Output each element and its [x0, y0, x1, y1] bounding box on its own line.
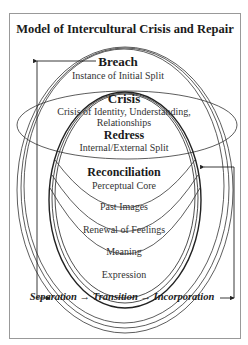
reconciliation-heading: Reconciliation [0, 165, 248, 180]
flow-sequence: Separation → Transition → Incorporation [0, 291, 246, 302]
layer-meaning: Meaning [0, 246, 248, 257]
layer-expression: Expression [0, 269, 248, 280]
breach-subtitle: Instance of Initial Split [0, 70, 242, 81]
layer-past-images: Past Images [0, 201, 248, 212]
crisis-heading: Crisis [0, 91, 248, 107]
crisis-subtitle-line2: Relationships [0, 117, 248, 128]
redress-subtitle: Internal/External Split [0, 142, 248, 153]
reconciliation-subtitle: Perceptual Core [0, 180, 248, 191]
redress-heading: Redress [0, 128, 248, 143]
crisis-subtitle-line1: Crisis of Identity, Understanding, [0, 106, 248, 117]
diagram-title: Model of Intercultural Crisis and Repair [9, 22, 241, 37]
layer-renewal-of-feelings: Renewal of Feelings [0, 224, 248, 235]
breach-heading: Breach [0, 54, 242, 70]
